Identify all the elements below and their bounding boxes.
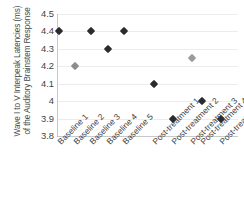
gridline	[58, 66, 238, 67]
y-axis-tick-label: 3.8	[28, 131, 54, 140]
y-axis-tick-label: 3.9	[28, 114, 54, 123]
data-point	[71, 62, 79, 70]
scatter-chart: Wave I to V Interpeak Latencies (ms) of …	[0, 0, 244, 208]
y-axis-tick-label: 4	[28, 96, 54, 105]
data-point	[55, 27, 63, 35]
y-axis-tick-labels: 4.54.44.34.24.143.93.8	[28, 0, 54, 208]
y-axis-tick-label: 4.2	[28, 61, 54, 70]
gridline	[58, 101, 238, 102]
gridline	[58, 31, 238, 32]
gridline	[58, 84, 238, 85]
data-point	[119, 27, 127, 35]
y-axis-title-line-1: Wave I to V Interpeak Latencies (ms)	[13, 6, 23, 137]
y-axis-tick-label: 4.1	[28, 79, 54, 88]
gridline	[58, 14, 238, 15]
data-point	[217, 114, 225, 122]
plot-area	[57, 14, 238, 137]
data-point	[169, 114, 177, 122]
data-point	[150, 79, 158, 87]
data-point	[198, 97, 206, 105]
data-point	[87, 27, 95, 35]
data-point	[103, 45, 111, 53]
gridline	[58, 49, 238, 50]
gridline	[58, 119, 238, 120]
y-axis-tick-label: 4.4	[28, 26, 54, 35]
y-axis-tick-label: 4.3	[28, 44, 54, 53]
data-point	[188, 53, 196, 61]
y-axis-tick-label: 4.5	[28, 9, 54, 18]
